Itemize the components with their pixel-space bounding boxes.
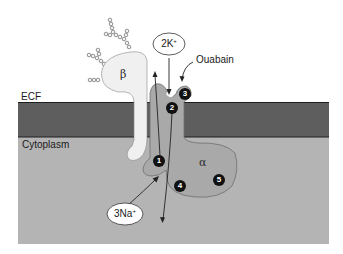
step-marker-3: 3 (179, 88, 191, 100)
potassium-count: 2K (161, 38, 173, 49)
step-marker-1: 1 (153, 155, 165, 167)
sodium-charge: + (132, 208, 136, 214)
arrowhead-na-out (153, 71, 158, 77)
ecf-label: ECF (21, 92, 41, 102)
beta-subunit-label: β (120, 69, 126, 80)
step-marker-2: 2 (166, 102, 178, 114)
potassium-charge: + (173, 38, 177, 44)
step-marker-5: 5 (213, 174, 225, 186)
alpha-subunit-label: α (199, 157, 206, 168)
cytoplasm-label: Cytoplasm (22, 140, 69, 150)
potassium-ion-label: 2K+ (153, 38, 185, 49)
step-marker-4: 4 (174, 180, 186, 192)
ouabain-label: Ouabain (196, 55, 234, 65)
arrowhead-ouabain (180, 76, 185, 82)
sodium-count: 3Na (114, 208, 132, 219)
sodium-ion-label: 3Na+ (107, 208, 143, 219)
